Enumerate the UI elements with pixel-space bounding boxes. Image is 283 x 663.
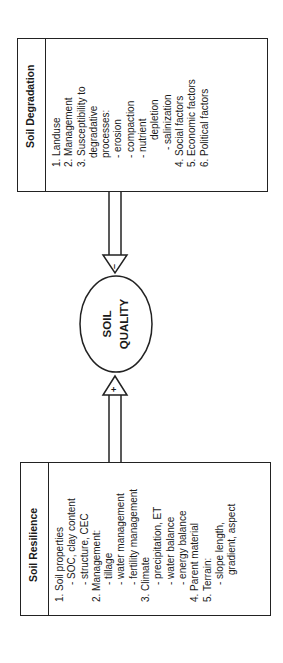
soil-resilience-title: Soil Resilience — [27, 508, 39, 582]
list-item: - energy balance — [177, 489, 189, 602]
list-item: processes: — [100, 79, 112, 167]
list-item: - erosion — [112, 79, 124, 167]
soil-degradation-list: 1. Landuse2. Management3. Susceptibility… — [51, 79, 211, 167]
list-item: - fertility management — [128, 489, 140, 602]
degradation-arrow — [103, 192, 127, 273]
list-item: 3. Climate — [140, 489, 152, 602]
list-item: - slope length, — [214, 489, 226, 602]
list-item: 2. Management — [63, 79, 75, 167]
list-item: depletion — [149, 79, 161, 167]
list-item: 5. Terrain: — [202, 489, 214, 602]
soil-quality-line2: QUALITY — [116, 296, 133, 352]
list-item: - precipitation, ET — [152, 489, 164, 602]
list-item: - nutrient — [137, 79, 149, 167]
list-item: 3. Susceptibility to — [76, 79, 88, 167]
list-item: 1. Landuse — [51, 79, 63, 167]
soil-quality-label: SOIL QUALITY — [99, 296, 133, 352]
soil-resilience-list: 1. Soil properties- SOC, clay content- s… — [54, 489, 238, 602]
list-item: 1. Soil properties — [54, 489, 66, 602]
list-item: gradient, aspect — [226, 489, 238, 602]
list-item: - salinization — [162, 79, 174, 167]
soil-quality-line1: SOIL — [99, 296, 116, 352]
minus-sign-icon: – — [109, 264, 119, 269]
list-item: - water balance — [165, 489, 177, 602]
list-item: - compaction — [125, 79, 137, 167]
list-item: 5. Economic factors — [186, 79, 198, 167]
plus-sign-icon: + — [109, 387, 119, 392]
list-item: - SOC, clay content — [66, 489, 78, 602]
list-item: - structure, CEC — [79, 489, 91, 602]
list-item: - water management — [115, 489, 127, 602]
list-item: 4. Social factors — [174, 79, 186, 167]
list-item: degradative — [88, 79, 100, 167]
list-item: 4. Parent material — [189, 489, 201, 602]
soil-degradation-title: Soil Degradation — [24, 65, 36, 148]
list-item: - tillage — [103, 489, 115, 602]
list-item: 2. Management: — [91, 489, 103, 602]
list-item: 6. Political factors — [199, 79, 211, 167]
